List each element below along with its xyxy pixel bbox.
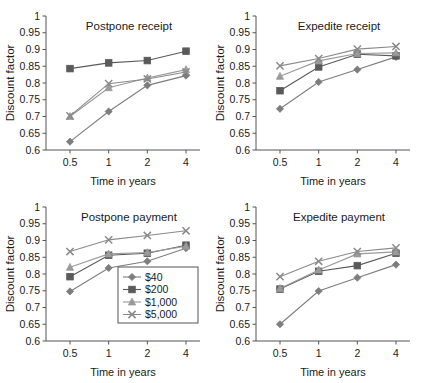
y-tick-label: 1 — [244, 10, 250, 22]
y-axis-title: Discount factor — [4, 44, 16, 121]
panel-title: Expedite receipt — [298, 20, 381, 32]
y-tick-label: 0.95 — [230, 217, 251, 229]
y-tick-label: 0.65 — [230, 127, 251, 139]
series-1000 — [66, 66, 189, 120]
chart-grid: 0.60.650.70.750.80.850.90.9510.5124Time … — [0, 0, 421, 383]
x-axis-title: Time in years — [90, 366, 156, 378]
marker-diamond — [276, 105, 283, 112]
diamond-marker — [315, 78, 322, 85]
marker-square — [129, 286, 136, 293]
x-tick-label: 2 — [354, 347, 360, 359]
x-tick-label: 4 — [183, 347, 189, 359]
cross-marker — [66, 248, 73, 255]
marker-cross — [66, 248, 73, 255]
legend: $40$200$1,000$5,000 — [118, 267, 198, 323]
y-tick-label: 0.85 — [20, 251, 41, 263]
y-tick-label: 1 — [34, 10, 40, 22]
y-tick-label: 0.8 — [235, 77, 250, 89]
x-tick-label: 4 — [183, 156, 189, 168]
diamond-marker — [144, 82, 151, 89]
series-line — [280, 53, 396, 76]
marker-cross — [315, 258, 322, 265]
cross-marker — [315, 258, 322, 265]
y-tick-label: 0.8 — [25, 268, 40, 280]
y-tick-label: 0.75 — [20, 93, 41, 105]
y-tick-label: 0.6 — [235, 144, 250, 156]
x-axis-title: Time in years — [300, 175, 366, 187]
y-tick-label: 0.8 — [25, 77, 40, 89]
square-marker — [67, 273, 74, 280]
x-tick-label: 4 — [393, 347, 399, 359]
y-tick-label: 0.95 — [20, 26, 41, 38]
square-marker — [183, 48, 190, 55]
y-axis-title: Discount factor — [214, 235, 226, 312]
y-tick-label: 0.85 — [230, 251, 251, 263]
diamond-marker — [354, 274, 361, 281]
y-tick-label: 0.75 — [20, 284, 41, 296]
y-tick-label: 0.9 — [235, 43, 250, 55]
x-axis-title: Time in years — [90, 175, 156, 187]
square-marker — [105, 60, 112, 67]
legend-label: $200 — [145, 283, 169, 295]
square-marker — [315, 64, 322, 71]
y-tick-label: 0.65 — [20, 127, 41, 139]
y-axis-title: Discount factor — [4, 235, 16, 312]
diamond-marker — [276, 105, 283, 112]
y-tick-label: 0.75 — [230, 284, 251, 296]
panel-postpone-receipt: 0.60.650.70.750.80.850.90.9510.5124Time … — [0, 0, 210, 191]
x-tick-label: 0.5 — [273, 156, 288, 168]
marker-diamond — [144, 258, 151, 265]
diamond-marker — [182, 72, 189, 79]
x-tick-label: 1 — [106, 347, 112, 359]
y-tick-label: 0.8 — [235, 268, 250, 280]
marker-diamond — [182, 72, 189, 79]
y-tick-label: 0.65 — [20, 318, 41, 330]
y-tick-label: 0.95 — [230, 26, 251, 38]
diamond-marker — [66, 288, 73, 295]
diamond-marker — [392, 261, 399, 268]
y-tick-label: 0.85 — [20, 60, 41, 72]
series-200 — [67, 48, 190, 72]
marker-diamond — [392, 261, 399, 268]
y-tick-label: 0.9 — [25, 234, 40, 246]
diamond-marker — [144, 258, 151, 265]
square-marker — [277, 87, 284, 94]
x-tick-label: 2 — [144, 347, 150, 359]
x-tick-label: 1 — [106, 156, 112, 168]
panel-title: Expedite payment — [293, 211, 386, 223]
y-tick-label: 0.7 — [235, 110, 250, 122]
marker-square — [315, 64, 322, 71]
marker-square — [277, 87, 284, 94]
y-tick-label: 1 — [34, 201, 40, 213]
series-line — [70, 51, 186, 68]
chart-canvas: 0.60.650.70.750.80.850.90.9510.5124Time … — [210, 191, 420, 383]
panel-expedite-payment: 0.60.650.70.750.80.850.90.9510.5124Time … — [210, 191, 421, 383]
chart-canvas: 0.60.650.70.750.80.850.90.9510.5124Time … — [210, 0, 420, 191]
panel-title: Postpone payment — [81, 211, 178, 223]
series-line — [280, 57, 396, 109]
cross-marker — [276, 273, 283, 280]
series-line — [70, 72, 186, 116]
x-tick-label: 0.5 — [63, 156, 78, 168]
y-tick-label: 0.7 — [25, 301, 40, 313]
y-tick-label: 0.9 — [25, 43, 40, 55]
diamond-marker — [354, 66, 361, 73]
x-axis-title: Time in years — [300, 366, 366, 378]
legend-label: $40 — [145, 271, 163, 283]
x-tick-label: 1 — [316, 156, 322, 168]
y-tick-label: 1 — [244, 201, 250, 213]
marker-diamond — [144, 82, 151, 89]
marker-diamond — [354, 66, 361, 73]
y-tick-label: 0.7 — [235, 301, 250, 313]
marker-square — [144, 57, 151, 64]
marker-square — [67, 65, 74, 72]
panel-expedite-receipt: 0.60.650.70.750.80.850.90.9510.5124Time … — [210, 0, 421, 191]
series-line — [70, 70, 186, 117]
series-line — [280, 253, 396, 289]
x-tick-label: 2 — [144, 156, 150, 168]
series-5000 — [276, 43, 399, 70]
y-tick-label: 0.75 — [230, 93, 251, 105]
y-axis-title: Discount factor — [214, 44, 226, 121]
x-tick-label: 0.5 — [63, 347, 78, 359]
panel-postpone-payment: 0.60.650.70.750.80.850.90.9510.5124Time … — [0, 191, 210, 383]
